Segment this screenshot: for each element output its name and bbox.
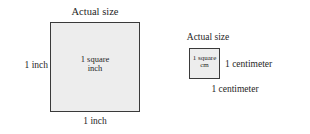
cm-bottom-dimension-label: 1 centimeter: [180, 85, 290, 95]
cm-actual-size-caption: Actual size: [182, 33, 234, 43]
square-inch-inner-label: 1 square inch: [50, 55, 140, 73]
inch-actual-size-caption: Actual size: [50, 6, 140, 17]
cm-right-dimension-label: 1 centimeter: [225, 60, 272, 70]
diagram-canvas: Actual size 1 square inch 1 inch 1 inch …: [0, 0, 310, 134]
square-cm-inner-label-line2: cm: [188, 62, 221, 69]
inch-bottom-dimension-label: 1 inch: [50, 117, 140, 127]
square-cm-inner-label: 1 square cm: [188, 55, 221, 70]
inch-left-dimension-label: 1 inch: [4, 61, 48, 71]
square-inch-inner-label-line2: inch: [50, 64, 140, 73]
